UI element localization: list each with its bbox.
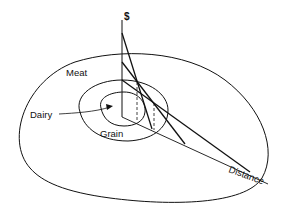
grain-zone-label: Grain	[100, 128, 123, 139]
distance-axis-label: Distance	[227, 164, 266, 187]
dairy-zone-label: Dairy	[30, 109, 52, 120]
land-use-diagram: $ Meat Dairy Grain Distance	[0, 0, 287, 210]
arrowhead-icon	[106, 104, 113, 110]
dollar-axis-label: $	[124, 11, 130, 22]
meat-zone-label: Meat	[66, 67, 87, 78]
meat-zone-boundary	[19, 54, 268, 203]
